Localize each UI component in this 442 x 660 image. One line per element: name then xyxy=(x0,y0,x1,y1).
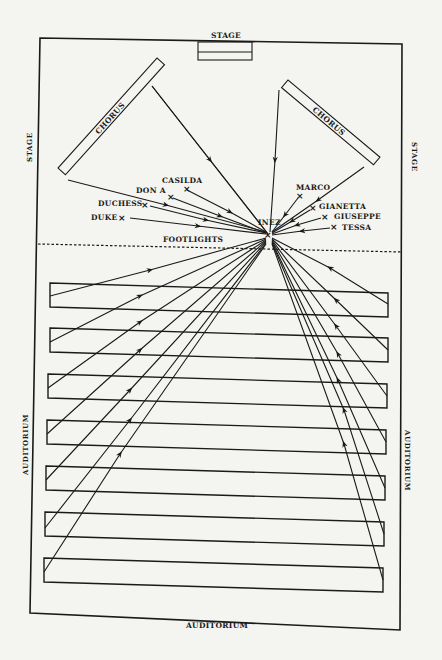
auditorium-label-left: AUDITORIUM xyxy=(21,414,30,476)
stage-label-right: STAGE xyxy=(410,142,419,172)
audience-sightlines-right xyxy=(272,238,388,580)
auditorium-label-bottom: AUDITORIUM xyxy=(185,621,248,630)
audience-row-5 xyxy=(46,466,385,500)
character-duke-label: DUKE xyxy=(91,213,117,222)
character-don-a-mark: × xyxy=(167,192,175,202)
chorus-left-block: CHORUS xyxy=(58,58,164,175)
character-giuseppe-mark: × xyxy=(321,212,329,222)
auditorium-label-right: AUDITORIUM xyxy=(403,429,412,491)
character-marco-mark: × xyxy=(296,191,304,201)
character-casilda-mark: × xyxy=(183,184,191,194)
stage-diagram: STAGE STAGE STAGE AUDITORIUM AUDITORIUM … xyxy=(0,0,442,660)
audience-row-7 xyxy=(44,558,383,592)
chorus-left-label: CHORUS xyxy=(94,101,127,136)
character-inez-label: INEZ xyxy=(258,218,281,227)
character-giuseppe-label: GIUSEPPE xyxy=(334,212,381,221)
audience-row-6 xyxy=(45,512,384,546)
audience-rows xyxy=(44,283,388,592)
chorus-right-block: CHORUS xyxy=(282,80,380,165)
character-tessa-mark: × xyxy=(330,222,338,232)
character-duchess-label: DUCHESS xyxy=(98,199,143,208)
stage-label-left: STAGE xyxy=(25,132,34,162)
stage-box xyxy=(198,42,252,60)
audience-row-2 xyxy=(50,328,388,362)
character-gianetta-mark: × xyxy=(309,203,317,213)
character-gianetta-label: GIANETTA xyxy=(319,202,366,211)
stage-label-top: STAGE xyxy=(211,31,241,40)
character-duke-mark: × xyxy=(118,213,126,223)
character-tessa-label: TESSA xyxy=(342,223,371,232)
character-don-a-label: DON A xyxy=(136,186,166,195)
character-duchess-mark: × xyxy=(141,200,149,210)
footlights-label: FOOTLIGHTS xyxy=(163,235,223,244)
character-inez-mark: × xyxy=(264,230,272,240)
chorus-right-label: CHORUS xyxy=(311,105,347,137)
